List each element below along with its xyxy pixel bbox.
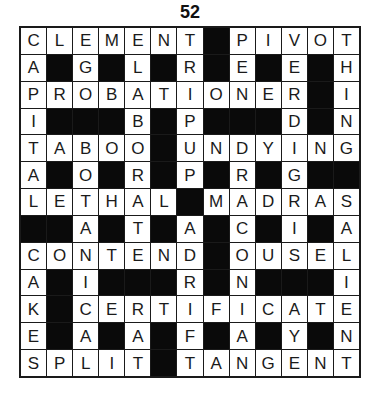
letter-cell[interactable]: U [256,243,281,269]
letter-cell[interactable]: G [256,350,281,376]
letter-cell[interactable]: I [256,28,281,54]
letter-cell[interactable]: T [21,135,46,161]
letter-cell[interactable]: N [204,135,229,161]
letter-cell[interactable]: E [334,296,359,322]
letter-cell[interactable]: A [21,55,46,81]
letter-cell[interactable]: A [334,216,359,242]
letter-cell[interactable]: C [230,216,255,242]
letter-cell[interactable]: N [73,243,98,269]
letter-cell[interactable]: T [125,350,150,376]
letter-cell[interactable]: Y [282,323,307,349]
letter-cell[interactable]: R [230,162,255,188]
letter-cell[interactable]: I [177,82,202,108]
letter-cell[interactable]: O [230,243,255,269]
letter-cell[interactable]: A [73,323,98,349]
letter-cell[interactable]: T [334,28,359,54]
letter-cell[interactable]: O [308,28,333,54]
letter-cell[interactable]: I [230,296,255,322]
letter-cell[interactable]: E [308,243,333,269]
letter-cell[interactable]: I [282,216,307,242]
letter-cell[interactable]: A [21,162,46,188]
letter-cell[interactable]: F [204,296,229,322]
letter-cell[interactable]: N [308,135,333,161]
letter-cell[interactable]: I [334,82,359,108]
letter-cell[interactable]: D [230,135,255,161]
letter-cell[interactable]: I [334,270,359,296]
letter-cell[interactable]: A [125,82,150,108]
letter-cell[interactable]: M [99,28,124,54]
letter-cell[interactable]: S [334,189,359,215]
letter-cell[interactable]: O [125,135,150,161]
letter-cell[interactable]: E [256,82,281,108]
letter-cell[interactable]: S [21,350,46,376]
letter-cell[interactable]: N [230,82,255,108]
letter-cell[interactable]: N [230,350,255,376]
letter-cell[interactable]: O [73,82,98,108]
letter-cell[interactable]: D [177,243,202,269]
letter-cell[interactable]: T [334,350,359,376]
letter-cell[interactable]: T [73,189,98,215]
letter-cell[interactable]: R [125,296,150,322]
letter-cell[interactable]: E [230,55,255,81]
letter-cell[interactable]: M [204,189,229,215]
letter-cell[interactable]: G [73,55,98,81]
letter-cell[interactable]: A [177,216,202,242]
letter-cell[interactable]: E [99,296,124,322]
letter-cell[interactable]: D [256,189,281,215]
letter-cell[interactable]: E [125,243,150,269]
letter-cell[interactable]: A [73,216,98,242]
letter-cell[interactable]: P [47,350,72,376]
letter-cell[interactable]: G [334,135,359,161]
letter-cell[interactable]: A [47,135,72,161]
letter-cell[interactable]: A [230,323,255,349]
letter-cell[interactable]: O [73,162,98,188]
letter-cell[interactable]: G [282,162,307,188]
letter-cell[interactable]: L [125,55,150,81]
letter-cell[interactable]: I [21,109,46,135]
letter-cell[interactable]: U [177,135,202,161]
letter-cell[interactable]: E [282,350,307,376]
letter-cell[interactable]: L [21,189,46,215]
letter-cell[interactable]: B [125,109,150,135]
letter-cell[interactable]: B [73,135,98,161]
letter-cell[interactable]: T [177,28,202,54]
letter-cell[interactable]: S [282,243,307,269]
letter-cell[interactable]: E [282,55,307,81]
letter-cell[interactable]: E [21,323,46,349]
letter-cell[interactable]: R [282,82,307,108]
letter-cell[interactable]: Y [256,135,281,161]
letter-cell[interactable]: I [99,350,124,376]
letter-cell[interactable]: A [204,350,229,376]
letter-cell[interactable]: F [177,323,202,349]
letter-cell[interactable]: I [282,135,307,161]
letter-cell[interactable]: C [73,296,98,322]
letter-cell[interactable]: N [151,28,176,54]
letter-cell[interactable]: T [177,350,202,376]
letter-cell[interactable]: A [230,189,255,215]
letter-cell[interactable]: A [308,189,333,215]
letter-cell[interactable]: C [21,243,46,269]
letter-cell[interactable]: C [21,28,46,54]
letter-cell[interactable]: T [125,216,150,242]
letter-cell[interactable]: E [47,189,72,215]
letter-cell[interactable]: T [151,296,176,322]
letter-cell[interactable]: R [177,270,202,296]
letter-cell[interactable]: L [151,189,176,215]
letter-cell[interactable]: O [204,82,229,108]
letter-cell[interactable]: N [230,270,255,296]
letter-cell[interactable]: O [47,243,72,269]
letter-cell[interactable]: R [177,55,202,81]
letter-cell[interactable]: P [177,162,202,188]
letter-cell[interactable]: R [282,189,307,215]
letter-cell[interactable]: L [334,243,359,269]
letter-cell[interactable]: N [334,109,359,135]
letter-cell[interactable]: T [308,296,333,322]
letter-cell[interactable]: A [282,296,307,322]
letter-cell[interactable]: T [151,82,176,108]
letter-cell[interactable]: A [125,189,150,215]
letter-cell[interactable]: H [334,55,359,81]
letter-cell[interactable]: R [47,82,72,108]
letter-cell[interactable]: L [73,350,98,376]
letter-cell[interactable]: N [334,323,359,349]
letter-cell[interactable]: D [282,109,307,135]
